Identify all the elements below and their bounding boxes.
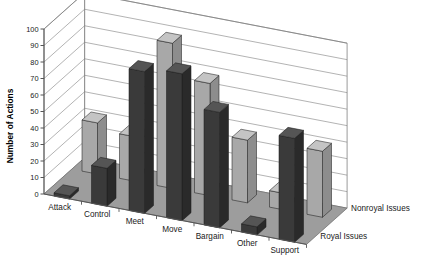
y-tick-label: 70 bbox=[30, 74, 38, 83]
legend-label-royal-issues: Royal Issues bbox=[320, 232, 367, 241]
bar-royal-move bbox=[167, 63, 192, 221]
y-tick-label: 90 bbox=[30, 41, 38, 50]
legend-label-nonroyal-issues: Nonroyal Issues bbox=[351, 204, 410, 213]
y-tick-label: 80 bbox=[30, 58, 38, 67]
x-axis-label-bargain: Bargain bbox=[196, 232, 225, 241]
x-axis-label-attack: Attack bbox=[48, 203, 72, 212]
bar-nonroyal-bargain bbox=[232, 129, 257, 203]
bar-nonroyal-support bbox=[307, 140, 332, 217]
bar-royal-meet bbox=[129, 61, 154, 214]
y-tick-label: 0 bbox=[34, 190, 38, 199]
y-tick-label: 20 bbox=[30, 157, 38, 166]
x-axis-label-support: Support bbox=[270, 246, 299, 255]
y-tick-label: 50 bbox=[30, 107, 38, 116]
x-axis-label-control: Control bbox=[84, 210, 111, 219]
y-tick-label: 30 bbox=[30, 140, 38, 149]
chart-container: 0102030405060708090100 AttackControlMeet… bbox=[0, 0, 421, 260]
x-axis-label-other: Other bbox=[237, 239, 258, 248]
y-tick-label: 100 bbox=[26, 25, 38, 34]
y-axis-title: Number of Actions bbox=[5, 88, 15, 163]
y-tick-label: 40 bbox=[30, 124, 38, 133]
bar-royal-control bbox=[92, 157, 117, 206]
bar-royal-bargain bbox=[204, 101, 229, 227]
y-tick-label: 60 bbox=[30, 91, 38, 100]
y-tick-label: 10 bbox=[30, 173, 38, 182]
x-axis-label-move: Move bbox=[162, 225, 182, 234]
bar-chart-3d: 0102030405060708090100 AttackControlMeet… bbox=[0, 0, 421, 260]
x-axis-label-meet: Meet bbox=[126, 217, 145, 226]
bar-royal-support bbox=[279, 127, 304, 242]
